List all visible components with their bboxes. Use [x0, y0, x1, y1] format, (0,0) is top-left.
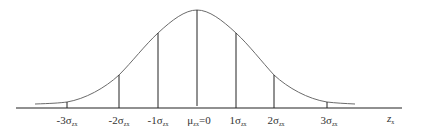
axis-label-zx: zx	[387, 112, 394, 125]
label-plus-3-sigma: 3σzx	[320, 114, 337, 127]
label-plus-1-sigma: 1σzx	[229, 114, 246, 127]
label-minus-3-sigma: -3σzx	[57, 114, 78, 127]
label-mean: μzx=0	[187, 114, 210, 127]
label-minus-2-sigma: -2σzx	[109, 114, 130, 127]
normal-distribution-diagram: -3σzx -2σzx -1σzx μzx=0 1σzx 2σzx 3σzx z…	[0, 0, 422, 134]
bell-curve	[35, 10, 355, 104]
label-minus-1-sigma: -1σzx	[148, 114, 169, 127]
label-plus-2-sigma: 2σzx	[267, 114, 284, 127]
